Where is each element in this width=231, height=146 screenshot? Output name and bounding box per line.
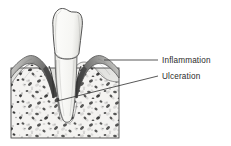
label-inflammation: Inflammation: [162, 56, 211, 65]
label-ulceration: Ulceration: [162, 72, 201, 81]
figure-root: Inflammation Ulceration: [0, 0, 231, 146]
tooth-crown: [53, 8, 83, 59]
anatomy-illustration: Inflammation Ulceration: [0, 0, 231, 146]
